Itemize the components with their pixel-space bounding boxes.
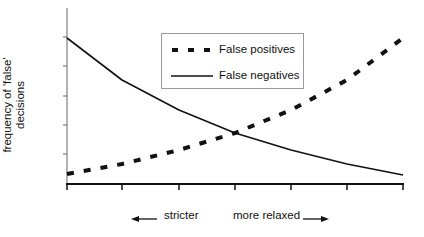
legend-label: False positives xyxy=(219,43,295,55)
legend-label: False negatives xyxy=(219,69,300,81)
solid-line-icon xyxy=(167,69,217,83)
y-axis-label-line1: frequency of 'false' xyxy=(1,57,13,152)
legend: False positives False negatives xyxy=(161,33,304,89)
right-arrow-icon xyxy=(303,216,329,222)
left-arrow-icon xyxy=(131,216,157,222)
y-ticks xyxy=(63,37,67,154)
more-relaxed-label: more relaxed xyxy=(233,209,300,221)
legend-item-false-positives: False positives xyxy=(162,43,303,59)
y-axis-label-line2: decisions xyxy=(14,81,26,129)
legend-item-false-negatives: False negatives xyxy=(162,69,303,85)
dashed-line-icon xyxy=(167,43,217,57)
stricter-label: stricter xyxy=(164,209,199,221)
